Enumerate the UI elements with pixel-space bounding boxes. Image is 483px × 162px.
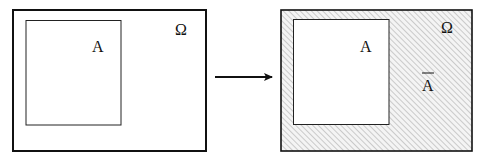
left-set-a-rect	[26, 21, 121, 126]
left-omega-label: Ω	[175, 21, 187, 38]
right-panel: A Ω A	[281, 10, 472, 151]
left-panel: A Ω	[13, 10, 206, 151]
complement-a-label: A	[422, 77, 434, 94]
left-set-a-label: A	[92, 38, 104, 55]
right-set-a-rect	[294, 20, 390, 125]
complement-diagram: A Ω A Ω A	[0, 0, 483, 162]
right-omega-label: Ω	[441, 19, 453, 36]
right-set-a-label: A	[360, 38, 372, 55]
